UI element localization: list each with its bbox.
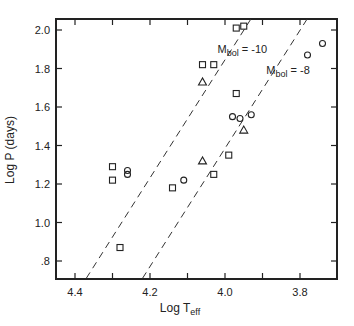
mbol-label: Mbol = -8 — [266, 64, 310, 79]
data-points — [110, 23, 326, 250]
y-tick-label: 1.0 — [35, 217, 50, 229]
circle-marker — [181, 177, 187, 183]
circle-marker — [237, 116, 243, 122]
triangle-marker — [199, 78, 207, 85]
square-marker — [170, 185, 176, 191]
triangle-marker — [199, 157, 207, 164]
dashed-lines — [86, 18, 307, 278]
circle-marker — [305, 52, 311, 58]
circle-marker — [125, 171, 131, 177]
x-axis-label: Log Teff — [160, 301, 201, 317]
square-marker — [110, 164, 116, 170]
square-marker — [241, 23, 247, 29]
x-tick-label: 3.8 — [292, 286, 307, 298]
mbol-line — [143, 18, 308, 278]
plot-frame — [56, 19, 337, 279]
y-tick-label: .8 — [41, 255, 50, 267]
square-marker — [117, 245, 123, 251]
square-marker — [233, 25, 239, 31]
x-tick-label: 4.4 — [67, 286, 82, 298]
square-marker — [226, 152, 232, 158]
x-tick-label: 4.0 — [217, 286, 232, 298]
plot-canvas: 4.44.24.03.8.81.01.21.41.61.82.0 Mbol = … — [0, 0, 354, 326]
triangle-marker — [240, 126, 248, 133]
y-tick-label: 1.6 — [35, 101, 50, 113]
scatter-chart: 4.44.24.03.8.81.01.21.41.61.82.0 Mbol = … — [0, 0, 354, 326]
x-tick-label: 4.2 — [142, 286, 157, 298]
y-tick-label: 1.8 — [35, 63, 50, 75]
y-tick-label: 1.4 — [35, 140, 50, 152]
axis-ticks: 4.44.24.03.8.81.01.21.41.61.82.0 — [35, 19, 337, 298]
square-marker — [110, 177, 116, 183]
circle-marker — [320, 40, 326, 46]
circle-marker — [230, 114, 236, 120]
y-tick-label: 1.2 — [35, 178, 50, 190]
square-marker — [211, 171, 217, 177]
square-marker — [200, 62, 206, 68]
y-tick-label: 2.0 — [35, 24, 50, 36]
y-axis-label: Log P (days) — [3, 116, 17, 184]
circle-marker — [248, 112, 254, 118]
square-marker — [233, 91, 239, 97]
square-marker — [211, 62, 217, 68]
annotations: Mbol = -10Mbol = -8 — [218, 43, 310, 79]
mbol-label: Mbol = -10 — [218, 43, 268, 58]
